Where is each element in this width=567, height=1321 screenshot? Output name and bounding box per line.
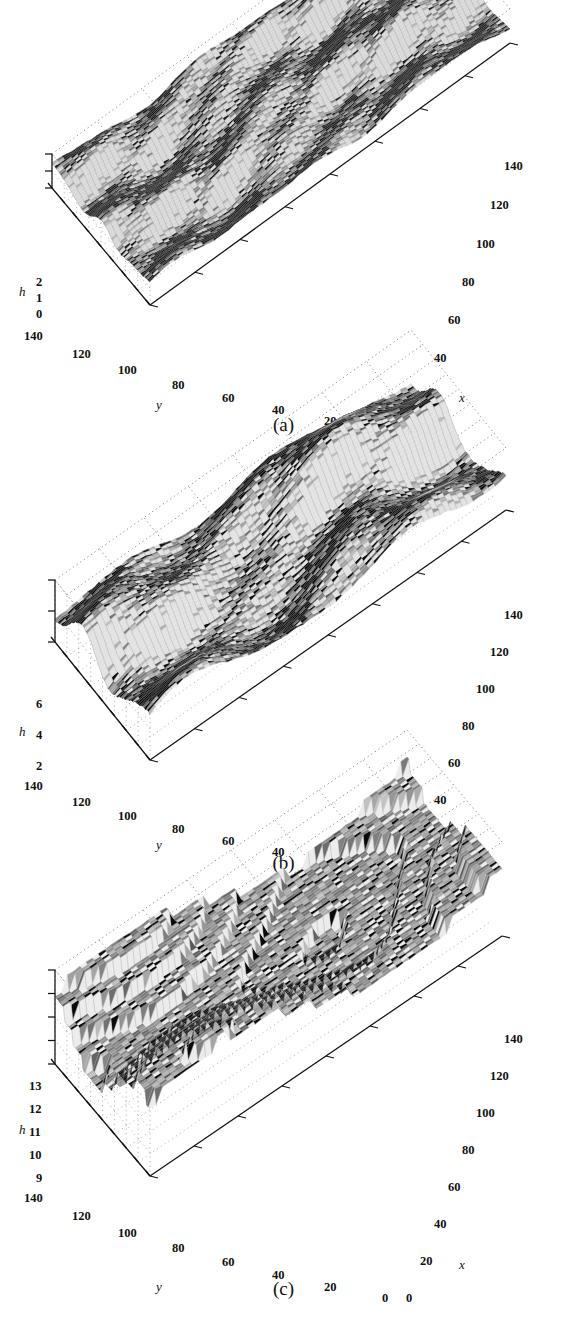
x-tick-a-40: 40 xyxy=(434,352,447,365)
x-tick-b-80: 80 xyxy=(462,720,475,733)
plot-stage-b: h 6 4 2 y 140 120 100 80 60 40 20 0 x 0 … xyxy=(0,440,567,880)
x-tick-c-40: 40 xyxy=(434,1218,447,1231)
y-axis-label-a: y xyxy=(156,398,162,411)
panel-caption-a: (a) xyxy=(0,414,567,436)
y-tick-b-140: 140 xyxy=(24,780,43,793)
plot-stage-a: h 2 1 0 y 140 120 100 80 60 40 20 0 x 0 … xyxy=(0,0,567,440)
x-axis-label-c: x xyxy=(459,1258,465,1271)
h-tick-a-1: 1 xyxy=(36,292,42,305)
y-tick-c-100: 100 xyxy=(118,1227,137,1240)
surface-canvas-c xyxy=(0,880,567,1321)
surface-plot-panel-a: h 2 1 0 y 140 120 100 80 60 40 20 0 x 0 … xyxy=(0,0,567,440)
h-tick-a-0: 0 xyxy=(36,308,42,321)
x-tick-c-80: 80 xyxy=(462,1144,475,1157)
y-axis-label-b: y xyxy=(156,838,162,851)
x-tick-c-120: 120 xyxy=(490,1070,509,1083)
x-tick-b-140: 140 xyxy=(504,609,523,622)
h-axis-label-c: h xyxy=(19,1123,26,1136)
h-tick-c-11: 11 xyxy=(29,1126,41,1139)
x-tick-b-60: 60 xyxy=(448,757,461,770)
surface-plot-panel-b: h 6 4 2 y 140 120 100 80 60 40 20 0 x 0 … xyxy=(0,440,567,880)
surface-canvas-b xyxy=(0,440,567,880)
h-axis-label-b: h xyxy=(19,725,26,738)
x-tick-a-120: 120 xyxy=(490,199,509,212)
surface-plot-panel-c: h 13 12 11 10 9 y 140 120 100 80 60 40 2… xyxy=(0,880,567,1321)
x-tick-b-100: 100 xyxy=(476,683,495,696)
y-tick-b-80: 80 xyxy=(172,823,185,836)
h-tick-b-6: 6 xyxy=(36,698,42,711)
h-tick-b-4: 4 xyxy=(36,729,42,742)
y-tick-b-100: 100 xyxy=(118,810,137,823)
h-tick-c-10: 10 xyxy=(29,1149,42,1162)
h-tick-c-13: 13 xyxy=(29,1080,42,1093)
x-tick-a-60: 60 xyxy=(448,314,461,327)
x-tick-c-20: 20 xyxy=(420,1255,433,1268)
y-tick-a-120: 120 xyxy=(72,348,91,361)
x-tick-b-120: 120 xyxy=(490,646,509,659)
y-tick-b-120: 120 xyxy=(72,796,91,809)
y-tick-a-140: 140 xyxy=(24,330,43,343)
h-tick-c-9: 9 xyxy=(36,1172,42,1185)
y-tick-b-60: 60 xyxy=(222,835,235,848)
y-tick-c-80: 80 xyxy=(172,1242,185,1255)
y-tick-a-100: 100 xyxy=(118,364,137,377)
h-tick-b-2: 2 xyxy=(36,760,42,773)
x-tick-c-140: 140 xyxy=(504,1033,523,1046)
x-tick-c-100: 100 xyxy=(476,1107,495,1120)
h-tick-a-2: 2 xyxy=(36,276,42,289)
y-tick-c-60: 60 xyxy=(222,1256,235,1269)
y-tick-a-80: 80 xyxy=(172,379,185,392)
x-tick-a-140: 140 xyxy=(504,160,523,173)
x-tick-c-60: 60 xyxy=(448,1181,461,1194)
h-tick-c-12: 12 xyxy=(29,1103,42,1116)
surface-canvas-a xyxy=(0,0,567,440)
x-tick-a-80: 80 xyxy=(462,276,475,289)
h-axis-label-a: h xyxy=(19,285,26,298)
y-tick-c-140: 140 xyxy=(24,1192,43,1205)
x-tick-a-100: 100 xyxy=(476,238,495,251)
y-tick-c-120: 120 xyxy=(72,1210,91,1223)
x-tick-b-40: 40 xyxy=(434,794,447,807)
panel-caption-c: (c) xyxy=(0,1278,567,1300)
y-tick-a-60: 60 xyxy=(222,392,235,405)
plot-stage-c: h 13 12 11 10 9 y 140 120 100 80 60 40 2… xyxy=(0,880,567,1321)
